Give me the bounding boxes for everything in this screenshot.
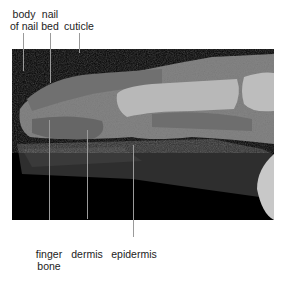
leader-nail-bed bbox=[50, 33, 51, 83]
leader-body-of-nail bbox=[23, 33, 24, 71]
label-dermis: dermis bbox=[70, 248, 104, 260]
label-line: dermis bbox=[70, 248, 104, 260]
label-cuticle: cuticle bbox=[62, 20, 96, 32]
leader-dermis bbox=[87, 130, 88, 219]
label-line: cuticle bbox=[62, 20, 96, 32]
fingertip-micrograph bbox=[12, 49, 274, 220]
label-line: epidermis bbox=[110, 248, 158, 260]
label-line: nail bbox=[37, 8, 63, 20]
label-line: bone bbox=[32, 260, 66, 272]
label-epidermis: epidermis bbox=[110, 248, 158, 260]
micrograph-image bbox=[12, 49, 274, 220]
label-nail-bed: nail bed bbox=[37, 8, 63, 32]
leader-cuticle bbox=[79, 33, 80, 53]
label-finger-bone: finger bone bbox=[32, 248, 66, 272]
leader-epidermis bbox=[133, 145, 134, 237]
leader-finger-bone bbox=[49, 120, 50, 220]
label-line: finger bbox=[32, 248, 66, 260]
label-line: bed bbox=[37, 20, 63, 32]
